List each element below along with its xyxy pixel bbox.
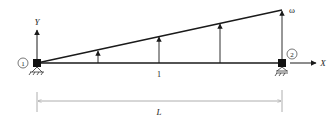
node-1-marker [33, 59, 41, 67]
roller-support-icon [275, 67, 288, 76]
pin-support-icon [29, 67, 44, 75]
x-axis: X [290, 58, 326, 68]
dimension-label: L [155, 107, 161, 117]
node-2-marker [278, 59, 286, 67]
y-axis-label: Y [34, 17, 40, 27]
load-label: ω [289, 5, 295, 15]
y-axis: Y [34, 17, 40, 60]
distributed-load: ω [37, 5, 295, 63]
element-label: 1 [157, 70, 161, 79]
beam-diagram: Y X ω 1 1 [0, 0, 331, 125]
node-2-label: 2 [290, 51, 294, 59]
node-1: 1 [18, 58, 44, 75]
x-axis-label: X [319, 58, 326, 68]
node-1-label: 1 [21, 60, 25, 68]
dimension-line: L [37, 90, 282, 117]
load-envelope-line [37, 10, 282, 63]
